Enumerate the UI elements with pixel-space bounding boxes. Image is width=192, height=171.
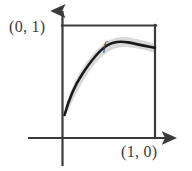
label-top-left-corner: (0, 1) [9, 19, 45, 35]
confidence-band [64, 37, 156, 117]
label-bottom-right-corner: (1, 0) [121, 144, 157, 160]
figure-container: (0, 1) (1, 0) f [0, 0, 192, 171]
function-curve-f [65, 42, 156, 115]
label-curve-f: f [103, 39, 107, 52]
